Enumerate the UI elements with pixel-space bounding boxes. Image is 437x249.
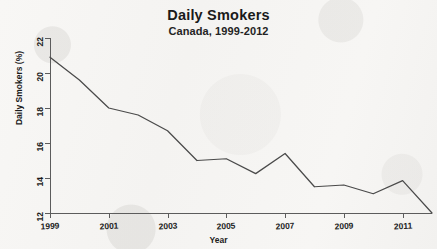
series-layer [0, 0, 437, 249]
line-series-daily-smokers [50, 57, 432, 213]
daily-smokers-line-chart: Daily Smokers Canada, 1999-2012 Daily Sm… [0, 0, 437, 249]
